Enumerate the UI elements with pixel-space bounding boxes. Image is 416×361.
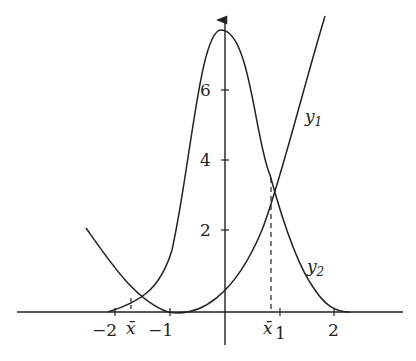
x-tick-label-neg2: −2 xyxy=(92,320,117,340)
label-y1: y1 xyxy=(304,106,322,129)
y-tick-label-6: 6 xyxy=(200,80,211,100)
graph-canvas: −2 −1 1 2 2 4 6 x̄ x̄ y1 y2 xyxy=(0,0,416,361)
x-tick-label-2: 2 xyxy=(328,320,339,340)
label-y2: y2 xyxy=(306,256,324,279)
label-xbar: x̄ xyxy=(126,318,136,338)
label-xbar1: x̄ xyxy=(263,318,273,338)
x-tick-label-1: 1 xyxy=(275,323,286,343)
y-tick-label-4: 4 xyxy=(200,150,211,170)
y-tick-label-2: 2 xyxy=(200,220,211,240)
x-tick-label-neg1: −1 xyxy=(148,320,173,340)
